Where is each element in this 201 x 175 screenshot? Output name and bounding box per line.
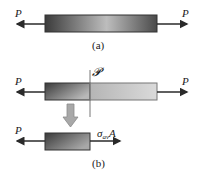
free-body-segment — [45, 133, 90, 150]
caption-a: (a) — [92, 40, 104, 51]
force-label-right-b: P — [182, 76, 189, 87]
caption-b: (b) — [92, 158, 105, 169]
section-plane-label: 𝓟 — [92, 66, 101, 78]
force-label-right-a: P — [182, 8, 189, 19]
diagram-canvas — [0, 0, 201, 175]
internal-force-label: σavA — [97, 124, 116, 141]
bar — [45, 15, 157, 32]
panel-a — [17, 15, 187, 32]
force-label-free-body-left: P — [15, 125, 22, 136]
bar-left-segment — [45, 83, 90, 100]
force-label-left-b: P — [15, 76, 22, 87]
hollow-down-arrow-icon — [63, 104, 78, 127]
bar-right-segment — [90, 83, 157, 100]
area-symbol: A — [109, 127, 116, 139]
force-label-left-a: P — [15, 8, 22, 19]
